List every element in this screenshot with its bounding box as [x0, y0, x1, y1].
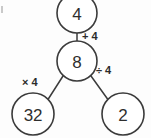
node-center-value: 8 [72, 53, 81, 72]
scan-artifact-speck [1, 6, 3, 13]
edge-center-to-bottom-left [47, 76, 63, 101]
edge-center-to-bottom-right [91, 76, 109, 101]
node-bottom-left-value: 32 [24, 106, 43, 125]
diagram-canvas: 4 8 32 2 + 4 × 4 ÷ 4 [0, 0, 151, 138]
edge-label-multiply: × 4 [22, 76, 38, 88]
edge-label-add: + 4 [82, 30, 98, 42]
node-bottom-right-value: 2 [118, 106, 127, 125]
node-top-value: 4 [72, 5, 81, 24]
edge-label-divide: ÷ 4 [96, 64, 112, 76]
number-bond-diagram: 4 8 32 2 + 4 × 4 ÷ 4 [0, 0, 151, 138]
